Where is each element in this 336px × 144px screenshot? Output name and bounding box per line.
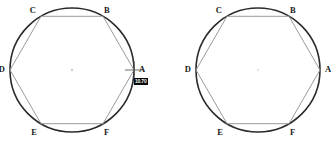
vertex-label-group-right: ABCDEF	[185, 5, 332, 137]
vertex-label-d: D	[185, 64, 191, 74]
vertex-label-c: C	[216, 5, 222, 15]
vertex-label-f: F	[104, 127, 109, 137]
center-point-left	[71, 69, 73, 71]
geometry-figure-right[interactable]: ABCDEF	[168, 0, 336, 144]
geometry-figure-left[interactable]: ABCDEF	[0, 0, 168, 144]
vertex-label-b: B	[290, 5, 296, 15]
center-point-right	[257, 69, 259, 71]
vertex-label-d: D	[0, 64, 5, 74]
coordinate-tooltip: 10.70	[134, 78, 148, 85]
figure-canvas: ABCDEF ABCDEF 10.70	[0, 0, 336, 144]
vertex-label-c: C	[30, 5, 36, 15]
vertex-label-a: A	[139, 64, 146, 74]
vertex-label-a: A	[325, 64, 332, 74]
vertex-label-b: B	[104, 5, 110, 15]
vertex-label-f: F	[290, 127, 295, 137]
vertex-label-group-left: ABCDEF	[0, 5, 146, 137]
vertex-label-e: E	[31, 127, 37, 137]
vertex-label-e: E	[217, 127, 223, 137]
